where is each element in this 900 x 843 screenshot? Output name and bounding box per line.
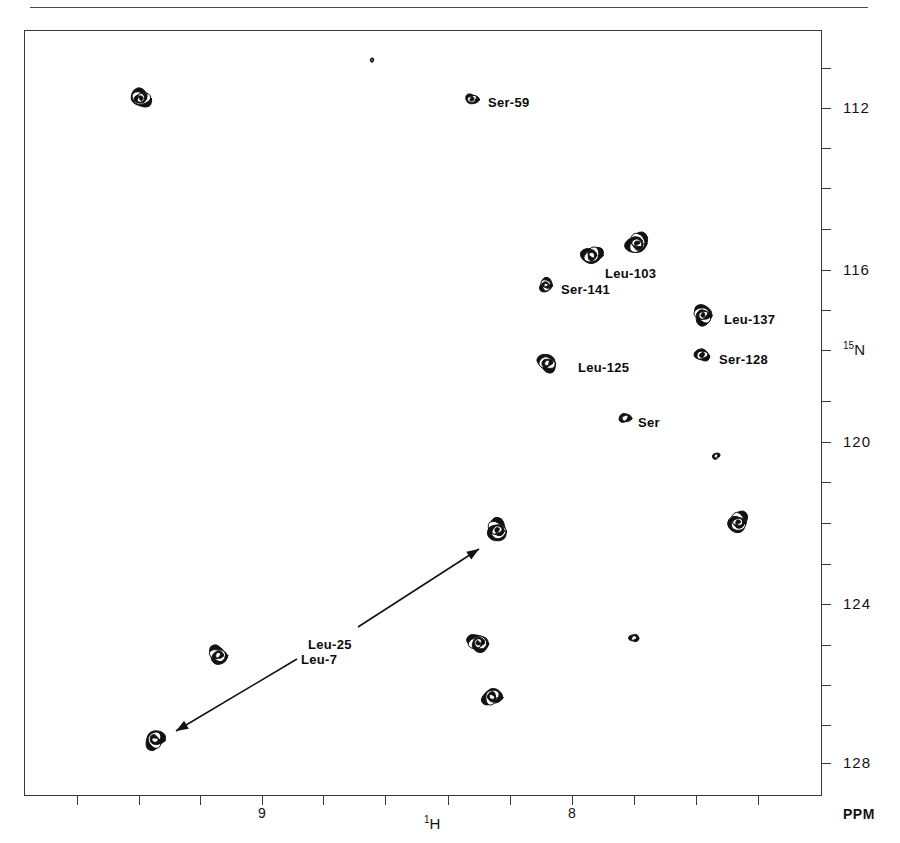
x-tick-5 <box>385 796 386 805</box>
y-axis-tick-label: 124 <box>843 595 871 612</box>
contour-peak <box>700 484 777 561</box>
peak-label-ser-141: Ser-141 <box>561 282 610 297</box>
y-axis-title-isotope: 15 <box>843 340 854 351</box>
y-tick-12 <box>822 564 831 565</box>
peak-label-ser-128: Ser-128 <box>719 352 768 367</box>
y-tick-0 <box>822 68 831 69</box>
plot-frame-right <box>821 30 822 796</box>
y-tick-4 <box>822 229 831 230</box>
peak-label-ser: Ser <box>638 415 660 430</box>
y-tick-17 <box>822 763 831 764</box>
peak-label-leu-125: Leu-125 <box>578 360 629 375</box>
contour-peak <box>457 490 537 570</box>
x-tick-7 <box>510 796 511 805</box>
contour-peak <box>104 61 178 135</box>
x-axis-tick-label: 8 <box>568 805 576 821</box>
peak-label-leu-103: Leu-103 <box>605 266 656 281</box>
x-tick-4 <box>323 796 324 805</box>
y-tick-3 <box>822 188 831 189</box>
x-tick-11 <box>758 796 759 805</box>
y-tick-5 <box>822 270 831 271</box>
y-axis-tick-label: 128 <box>843 754 871 771</box>
header-rule <box>30 7 868 8</box>
peak-label-leu-137: Leu-137 <box>724 312 775 327</box>
x-axis-title-element: H <box>430 815 441 832</box>
peak-label-ser-59: Ser-59 <box>488 95 530 110</box>
peak-label-leu-25: Leu-25 <box>308 637 352 652</box>
x-tick-1 <box>139 796 140 805</box>
x-tick-0 <box>77 796 78 805</box>
x-tick-8 <box>572 796 573 805</box>
y-tick-16 <box>822 725 831 726</box>
peak-label-leu-7: Leu-7 <box>301 652 337 667</box>
x-tick-6 <box>448 796 449 805</box>
plot-frame-left <box>24 30 25 796</box>
contour-peak <box>118 703 192 777</box>
plot-frame-bottom <box>24 795 822 796</box>
y-tick-15 <box>822 685 831 686</box>
y-tick-11 <box>822 523 831 524</box>
contour-peak <box>699 439 734 474</box>
y-tick-9 <box>822 442 831 443</box>
contour-peak <box>183 620 254 691</box>
y-axis-tick-label: 112 <box>843 99 870 116</box>
y-axis-tick-label: 116 <box>843 261 870 278</box>
nmr-spectrum-figure: 112116120124128 98 15N 1H PPM Ser-59Leu-… <box>0 0 900 843</box>
x-tick-3 <box>262 796 263 805</box>
y-tick-2 <box>822 148 831 149</box>
contour-peak <box>457 662 528 733</box>
x-axis-title: 1H <box>424 814 440 832</box>
x-tick-10 <box>696 796 697 805</box>
y-tick-6 <box>822 310 831 311</box>
plot-frame-top <box>24 30 822 31</box>
contour-peak <box>359 47 385 73</box>
y-axis-tick-label: 120 <box>843 433 871 450</box>
y-axis-title-element: N <box>854 341 865 358</box>
y-tick-8 <box>822 401 831 402</box>
contour-peak-leu-125 <box>512 328 583 399</box>
y-tick-13 <box>822 604 831 605</box>
y-axis-title: 15N <box>843 340 865 358</box>
y-tick-7 <box>822 350 831 351</box>
y-tick-1 <box>822 108 831 109</box>
x-tick-9 <box>634 796 635 805</box>
x-tick-2 <box>200 796 201 805</box>
y-tick-14 <box>822 645 831 646</box>
x-axis-tick-label: 9 <box>258 805 266 821</box>
ppm-unit-label: PPM <box>843 806 875 822</box>
y-tick-10 <box>822 482 831 483</box>
contour-peak <box>614 618 655 659</box>
